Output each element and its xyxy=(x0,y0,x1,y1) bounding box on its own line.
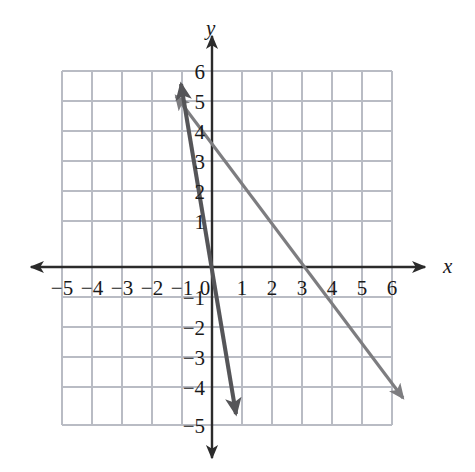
y-tick-label-neg5: −5 xyxy=(169,416,205,437)
x-tick-label-1: 1 xyxy=(231,278,253,299)
y-tick-label-6: 6 xyxy=(183,62,205,83)
graph-canvas xyxy=(0,0,475,472)
x-axis-label: x xyxy=(443,256,452,277)
y-tick-label-1: 1 xyxy=(183,212,205,233)
y-tick-label-2: 2 xyxy=(183,182,205,203)
coordinate-plane-figure: −5 −4 −3 −2 −1 0 1 2 3 4 5 6 6 5 4 3 2 1… xyxy=(0,0,475,472)
x-tick-label-2: 2 xyxy=(261,278,283,299)
y-axis-label: y xyxy=(206,18,215,39)
y-tick-label-4: 4 xyxy=(183,122,205,143)
x-tick-label-5: 5 xyxy=(351,278,373,299)
y-tick-label-5: 5 xyxy=(183,92,205,113)
y-tick-label-neg2: −2 xyxy=(169,318,205,339)
y-tick-label-neg4: −4 xyxy=(169,378,205,399)
x-tick-label-3: 3 xyxy=(291,278,313,299)
x-tick-label-4: 4 xyxy=(321,278,343,299)
y-tick-label-3: 3 xyxy=(183,152,205,173)
x-tick-label-6: 6 xyxy=(381,278,403,299)
y-tick-label-neg3: −3 xyxy=(169,348,205,369)
y-tick-label-neg1: −1 xyxy=(169,288,205,309)
